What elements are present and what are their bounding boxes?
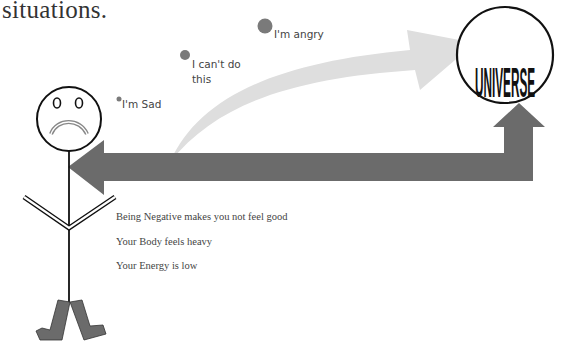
note-body-heavy: Your Body feels heavy (116, 236, 212, 247)
bubble-cant-icon (180, 50, 190, 60)
bubble-angry-icon (258, 19, 273, 34)
universe-label: UNIVERSE (475, 59, 535, 107)
bubble-label-angry: I'm angry (274, 27, 324, 42)
bubble-label-cant-line1: I can't do (192, 57, 241, 72)
universe-circle-icon: UNIVERSE (457, 7, 553, 106)
diagram-graphics: UNIVERSE (0, 0, 562, 349)
negativity-diagram: situations. UNIVERSE (0, 0, 562, 349)
bubble-sad-icon (117, 97, 122, 102)
stick-figure-icon (24, 87, 115, 340)
note-energy-low: Your Energy is low (116, 260, 197, 271)
return-arrow-icon (68, 103, 545, 195)
bubble-label-cant-line2: this (192, 72, 241, 87)
bubble-label-cant: I can't do this (192, 57, 241, 87)
curved-arrow-icon (170, 30, 475, 162)
note-negative: Being Negative makes you not feel good (116, 211, 287, 222)
bubble-label-sad: I'm Sad (122, 97, 161, 112)
